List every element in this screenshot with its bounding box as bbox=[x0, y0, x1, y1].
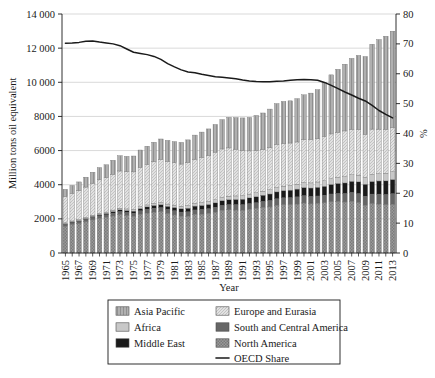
legend-label: Asia Pacific bbox=[134, 306, 185, 317]
bar-segment bbox=[172, 215, 177, 253]
bar-segment bbox=[363, 134, 368, 177]
bar-segment bbox=[152, 212, 157, 253]
x-tick-label: 1969 bbox=[87, 260, 98, 281]
bar-segment bbox=[220, 205, 225, 210]
bar-segment bbox=[268, 109, 273, 148]
bar-segment bbox=[172, 207, 177, 210]
bar-segment bbox=[193, 135, 198, 159]
bar-segment bbox=[118, 156, 123, 171]
bar-segment bbox=[70, 185, 75, 193]
bar-segment bbox=[343, 177, 348, 183]
bar-segment bbox=[363, 57, 368, 135]
bar-segment bbox=[349, 129, 354, 174]
bar-segment bbox=[213, 212, 218, 253]
bar-segment bbox=[220, 120, 225, 149]
bar-segment bbox=[213, 152, 218, 200]
y-tick-label: 2000 bbox=[34, 213, 55, 224]
bar-segment bbox=[329, 134, 334, 179]
bar-segment bbox=[165, 209, 170, 213]
bar-segment bbox=[193, 214, 198, 253]
bar-segment bbox=[118, 208, 123, 210]
bar-segment bbox=[63, 189, 68, 196]
bar-segment bbox=[322, 137, 327, 181]
bar-segment bbox=[390, 204, 395, 253]
bar-segment bbox=[131, 209, 136, 211]
bar-segment bbox=[234, 118, 239, 150]
bar-segment bbox=[220, 210, 225, 253]
bar-segment bbox=[118, 215, 123, 253]
bar-segment bbox=[383, 129, 388, 173]
bar-segment bbox=[111, 216, 116, 253]
bar-segment bbox=[213, 200, 218, 203]
bar-segment bbox=[240, 150, 245, 195]
bar-segment bbox=[152, 203, 157, 205]
bar-segment bbox=[377, 129, 382, 174]
bar-segment bbox=[302, 188, 307, 196]
bar-segment bbox=[377, 204, 382, 253]
bar-segment bbox=[363, 196, 368, 205]
bar-segment bbox=[390, 194, 395, 204]
bar-segment bbox=[104, 215, 109, 218]
bar-segment bbox=[152, 162, 157, 204]
legend-swatch bbox=[116, 339, 129, 347]
bar-segment bbox=[159, 212, 164, 253]
bar-segment bbox=[104, 178, 109, 212]
x-tick-label: 2003 bbox=[319, 260, 330, 281]
bar-segment bbox=[329, 184, 334, 194]
bar-segment bbox=[199, 203, 204, 206]
x-tick-label: 1979 bbox=[155, 260, 166, 281]
y2-tick-label: 40 bbox=[403, 128, 414, 139]
bar-segment bbox=[90, 183, 95, 215]
bar-segment bbox=[329, 202, 334, 253]
legend-label: OECD Share bbox=[234, 353, 289, 364]
bar-segment bbox=[343, 202, 348, 253]
bar-segment bbox=[227, 196, 232, 199]
bar-segment bbox=[308, 93, 313, 139]
bar-segment bbox=[234, 149, 239, 196]
bar-segment bbox=[288, 101, 293, 143]
bar-segment bbox=[220, 201, 225, 206]
bar-segment bbox=[390, 128, 395, 172]
y2-axis-title: % bbox=[418, 129, 429, 138]
bar-segment bbox=[152, 142, 157, 161]
bar-segment bbox=[336, 132, 341, 177]
bar-segment bbox=[138, 207, 143, 209]
bar-segment bbox=[343, 131, 348, 177]
y2-tick-label: 70 bbox=[403, 38, 414, 49]
bar-segment bbox=[84, 222, 89, 253]
bar-segment bbox=[308, 196, 313, 203]
bar-segment bbox=[159, 159, 164, 202]
x-tick-label: 2009 bbox=[360, 260, 371, 281]
bar-segment bbox=[124, 156, 129, 171]
bar-segment bbox=[329, 194, 334, 202]
legend-item-south-central-america: South and Central America bbox=[216, 322, 348, 333]
bar-segment bbox=[145, 213, 150, 253]
bar-segment bbox=[179, 212, 184, 216]
bar-segment bbox=[281, 205, 286, 253]
legend-item-africa: Africa bbox=[116, 322, 161, 333]
legend-swatch bbox=[216, 323, 229, 331]
bar-segment bbox=[193, 210, 198, 214]
bar-segment bbox=[77, 182, 82, 191]
bar-segment bbox=[193, 206, 198, 210]
x-tick-label: 1983 bbox=[183, 260, 194, 281]
bar-segment bbox=[118, 212, 123, 215]
bar-segment bbox=[363, 205, 368, 253]
bar-segment bbox=[206, 209, 211, 214]
bar-segment bbox=[227, 210, 232, 253]
y-tick-label: 4000 bbox=[34, 179, 55, 190]
bar-segment bbox=[145, 164, 150, 204]
bar-segment bbox=[349, 175, 354, 182]
bar-segment bbox=[179, 164, 184, 206]
x-tick-label: 1977 bbox=[142, 260, 153, 281]
bar-segment bbox=[90, 220, 95, 253]
bar-segment bbox=[131, 213, 136, 216]
bar-segment bbox=[295, 184, 300, 189]
bar-segment bbox=[390, 31, 395, 127]
legend-item-north-america: North America bbox=[216, 338, 297, 349]
bar-segment bbox=[308, 204, 313, 253]
bar-segment bbox=[261, 202, 266, 208]
legend-item-middle-east: Middle East bbox=[116, 338, 185, 349]
bar-segment bbox=[240, 199, 245, 204]
x-tick-label: 1971 bbox=[101, 260, 112, 281]
